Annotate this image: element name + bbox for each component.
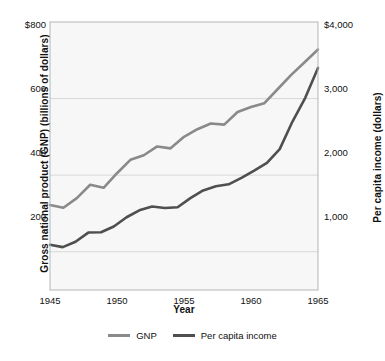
legend-label-per-capita-income: Per capita income bbox=[201, 330, 277, 341]
chart-container: Gross national product (GNP) (billions o… bbox=[0, 0, 385, 361]
legend-item-per-capita-income[interactable]: Per capita income bbox=[173, 330, 277, 341]
legend-item-gnp[interactable]: GNP bbox=[108, 330, 157, 341]
plot-area bbox=[0, 0, 385, 361]
chart-legend: GNP Per capita income bbox=[0, 330, 385, 341]
legend-swatch-per-capita-income bbox=[173, 334, 195, 338]
plot-background bbox=[50, 22, 318, 290]
legend-swatch-gnp bbox=[108, 334, 130, 338]
legend-label-gnp: GNP bbox=[136, 330, 157, 341]
